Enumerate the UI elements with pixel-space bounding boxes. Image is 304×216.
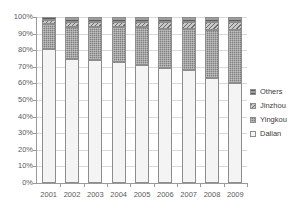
plot-area	[37, 17, 247, 183]
x-axis-tick-mark	[130, 183, 131, 187]
bar-2002[interactable]	[65, 17, 79, 183]
bar-segment-yingkou[interactable]	[88, 27, 102, 60]
bar-2003[interactable]	[88, 17, 102, 183]
y-axis-tick-mark	[33, 117, 37, 118]
bar-segment-others[interactable]	[228, 17, 242, 22]
x-axis-tick-mark	[177, 183, 178, 187]
y-axis-tick-mark	[33, 100, 37, 101]
y-axis-tick-mark	[33, 67, 37, 68]
bar-segment-jinzhou[interactable]	[158, 22, 172, 29]
legend-swatch-others-icon	[250, 89, 256, 95]
bar-segment-yingkou[interactable]	[205, 30, 219, 78]
bar-segment-jinzhou[interactable]	[135, 22, 149, 27]
bar-2008[interactable]	[205, 17, 219, 183]
bar-segment-dalian[interactable]	[228, 83, 242, 183]
bar-segment-jinzhou[interactable]	[88, 22, 102, 27]
bar-segment-others[interactable]	[205, 17, 219, 22]
bar-2006[interactable]	[158, 17, 172, 183]
bar-segment-dalian[interactable]	[205, 78, 219, 183]
y-axis-tick-label: 50%	[18, 96, 33, 104]
y-axis-tick-mark	[33, 50, 37, 51]
bar-segment-dalian[interactable]	[65, 59, 79, 184]
legend-item-others[interactable]: Others	[250, 86, 304, 98]
legend-item-jinzhou[interactable]: Jinzhou	[250, 100, 304, 112]
legend-label: Dalian	[260, 130, 281, 138]
bar-segment-jinzhou[interactable]	[182, 22, 196, 29]
y-axis-tick-label: 40%	[18, 113, 33, 121]
bar-segment-others[interactable]	[65, 17, 79, 22]
legend-swatch-dalian-icon	[250, 131, 256, 137]
bar-segment-jinzhou[interactable]	[112, 22, 126, 27]
bar-segment-others[interactable]	[88, 17, 102, 22]
bar-segment-yingkou[interactable]	[65, 27, 79, 59]
bar-segment-yingkou[interactable]	[135, 27, 149, 65]
legend-label: Others	[260, 88, 283, 96]
y-axis-tick-label: 100%	[14, 13, 33, 21]
legend-item-dalian[interactable]: Dalian	[250, 128, 304, 140]
y-axis-tick-label: 90%	[18, 30, 33, 38]
bar-segment-jinzhou[interactable]	[228, 22, 242, 30]
y-axis-tick-label: 0%	[22, 179, 33, 187]
legend-swatch-jinzhou-icon	[250, 103, 256, 109]
bar-segment-others[interactable]	[112, 17, 126, 22]
x-axis-tick-mark	[107, 183, 108, 187]
x-axis-tick-mark	[84, 183, 85, 187]
bar-segment-dalian[interactable]	[112, 62, 126, 183]
bar-segment-dalian[interactable]	[42, 49, 56, 183]
y-axis-tick-label: 20%	[18, 146, 33, 154]
x-axis-tick-mark	[154, 183, 155, 187]
bar-segment-yingkou[interactable]	[42, 24, 56, 49]
y-axis-tick-mark	[33, 183, 37, 184]
x-axis-tick-mark	[247, 183, 248, 187]
y-axis-tick-mark	[33, 17, 37, 18]
bar-segment-jinzhou[interactable]	[205, 22, 219, 30]
bar-segment-others[interactable]	[135, 17, 149, 22]
y-axis-tick-label: 60%	[18, 79, 33, 87]
legend-label: Jinzhou	[260, 102, 286, 110]
y-axis-tick-label: 10%	[18, 162, 33, 170]
bar-segment-yingkou[interactable]	[182, 29, 196, 71]
bar-segment-yingkou[interactable]	[112, 27, 126, 62]
y-axis-tick-mark	[33, 150, 37, 151]
legend: OthersJinzhouYingkouDalian	[250, 86, 304, 142]
bar-segment-others[interactable]	[158, 17, 172, 22]
bar-segment-jinzhou[interactable]	[42, 20, 56, 23]
legend-item-yingkou[interactable]: Yingkou	[250, 114, 304, 126]
legend-swatch-yingkou-icon	[250, 117, 256, 123]
y-axis: 100%90%80%70%60%50%40%30%20%10%0%	[0, 0, 33, 216]
x-axis-tick-label: 2009	[221, 190, 249, 199]
y-axis-tick-label: 70%	[18, 63, 33, 71]
bar-segment-yingkou[interactable]	[228, 30, 242, 83]
bar-segment-jinzhou[interactable]	[65, 22, 79, 27]
y-axis-tick-mark	[33, 133, 37, 134]
bar-2005[interactable]	[135, 17, 149, 183]
bar-segment-yingkou[interactable]	[158, 29, 172, 69]
y-axis-tick-mark	[33, 83, 37, 84]
bar-segment-dalian[interactable]	[182, 70, 196, 183]
legend-label: Yingkou	[260, 116, 287, 124]
bar-segment-dalian[interactable]	[158, 68, 172, 183]
x-axis-line	[36, 183, 248, 184]
bar-segment-others[interactable]	[42, 17, 56, 20]
x-axis-tick-mark	[200, 183, 201, 187]
bar-2009[interactable]	[228, 17, 242, 183]
y-axis-tick-mark	[33, 166, 37, 167]
bar-segment-others[interactable]	[182, 17, 196, 22]
y-axis-tick-mark	[33, 34, 37, 35]
x-axis-tick-mark	[60, 183, 61, 187]
chart-container: 100%90%80%70%60%50%40%30%20%10%0% Others…	[0, 0, 304, 216]
bar-segment-dalian[interactable]	[88, 60, 102, 183]
bar-segment-dalian[interactable]	[135, 65, 149, 183]
bar-2007[interactable]	[182, 17, 196, 183]
y-axis-tick-label: 80%	[18, 46, 33, 54]
bar-2001[interactable]	[42, 17, 56, 183]
y-axis-tick-label: 30%	[18, 129, 33, 137]
x-axis-tick-mark	[224, 183, 225, 187]
bar-2004[interactable]	[112, 17, 126, 183]
